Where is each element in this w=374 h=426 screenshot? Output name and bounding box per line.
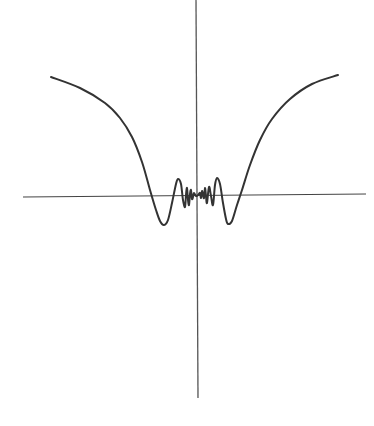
y-axis [196,0,198,398]
function-plot [0,0,374,426]
function-curve [51,75,338,225]
